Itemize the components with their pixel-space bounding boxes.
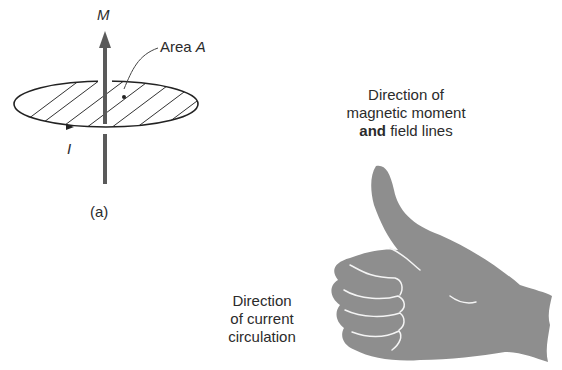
thumb-caption-line1: Direction of <box>318 86 494 104</box>
area-label: Area A <box>160 38 206 56</box>
fingers-caption: Direction of current circulation <box>212 292 312 346</box>
moment-arrowhead-icon <box>99 31 111 48</box>
moment-label: M <box>97 6 110 24</box>
fingers-caption-line3: circulation <box>212 328 312 346</box>
current-label: I <box>67 140 71 158</box>
thumb-caption: Direction of magnetic moment and field l… <box>318 86 494 140</box>
thumb-caption-bold: and <box>359 122 386 139</box>
thumb-caption-line3: and field lines <box>318 122 494 140</box>
fingers-caption-line2: of current <box>212 310 312 328</box>
area-label-prefix: Area <box>160 38 196 55</box>
figure-caption-a: (a) <box>90 203 108 221</box>
right-hand-icon <box>331 166 552 362</box>
thumb-caption-line2: magnetic moment <box>318 104 494 122</box>
thumb-caption-rest: field lines <box>386 122 453 139</box>
area-label-var: A <box>196 38 206 55</box>
fingers-caption-line1: Direction <box>212 292 312 310</box>
area-point <box>122 95 126 99</box>
